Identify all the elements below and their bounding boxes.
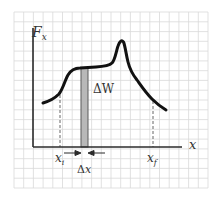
x-axis-label: x [189,137,197,152]
delta-w-label: ΔW [93,82,115,96]
delta-x-label: Δx [77,163,92,176]
diagram-canvas: Fx ΔW x xi Δx xf [0,0,221,197]
x-initial-label: xi [55,151,65,167]
y-axis-label: Fx [31,24,47,42]
work-variable-force-diagram: Fx ΔW x xi Δx xf [0,0,221,197]
delta-x-arrows [64,151,105,156]
work-strip [81,68,88,148]
